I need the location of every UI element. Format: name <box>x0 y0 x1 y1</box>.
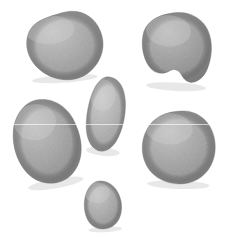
pebbles-scene <box>0 0 227 250</box>
stone-mid-left <box>12 97 82 187</box>
stone-bottom <box>82 179 124 231</box>
stone-top-left <box>20 11 102 81</box>
stone-mid-right <box>139 109 217 187</box>
stone-top-right <box>139 11 214 89</box>
stone-center <box>85 75 127 154</box>
